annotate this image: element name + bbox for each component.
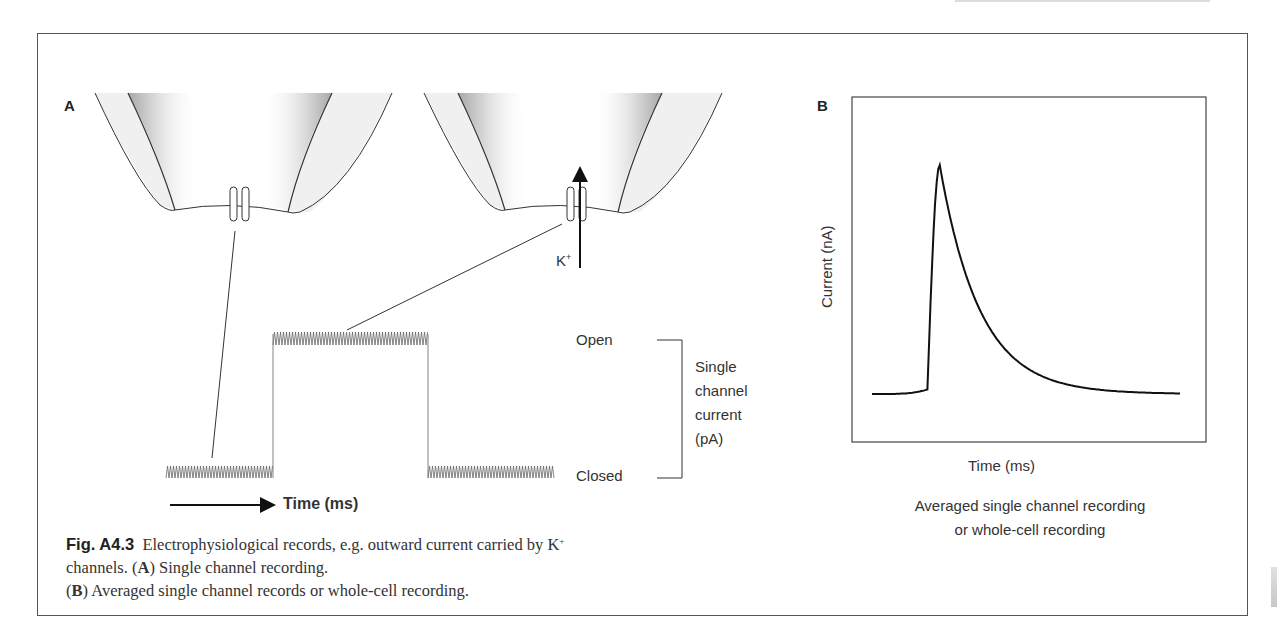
subtitle-line: or whole-cell recording [855,518,1205,542]
single-channel-trace [166,332,554,478]
panel-b-label: B [817,97,828,114]
subtitle-line: Averaged single channel recording [855,494,1205,518]
caption-text: Electrophysiological records, e.g. outwa… [142,535,559,554]
panel-a-time-label: Time (ms) [283,495,358,513]
bracket-label-line: Single [695,355,748,379]
panel-b-ylabel: Current (nA) [818,225,835,308]
caption-letter: A [137,558,149,577]
caption-sup: + [559,536,564,546]
caption-text: ) Single channel recording. [149,558,328,577]
closed-state-label: Closed [576,467,623,484]
bracket-label-line: current [695,403,748,427]
caption-text: channels. ( [66,558,137,577]
panel-a-label: A [64,97,75,114]
bracket-label-line: (pA) [695,427,748,451]
panel-b-plot-area [852,97,1206,442]
caption-text: ) Averaged single channel records or who… [83,581,469,600]
figure-caption: Fig. A4.3 Electrophysiological records, … [66,530,626,602]
current-bracket [657,340,682,478]
k-ion-label: K+ [556,252,571,269]
bracket-label-line: channel [695,379,748,403]
pointer-closed-channel [212,231,235,458]
pipette-left [95,93,392,221]
caption-letter: B [72,581,83,600]
bracket-label: Single channel current (pA) [695,355,748,451]
pointer-open-channel [347,224,562,330]
panel-b-subtitle: Averaged single channel recording or who… [855,494,1205,542]
open-state-label: Open [576,331,613,348]
panel-b-xlabel: Time (ms) [968,457,1035,474]
pipette-right [424,93,722,268]
figure-number: Fig. A4.3 [66,535,134,553]
